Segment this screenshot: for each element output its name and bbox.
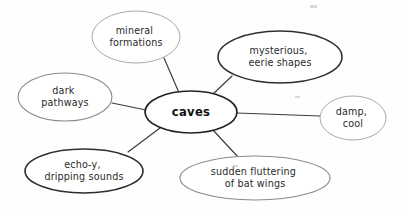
edge-caves-sudden-fluttering-bat-wings xyxy=(212,129,238,157)
scan-speck xyxy=(295,96,300,98)
node-label-caves: caves xyxy=(172,105,211,119)
scan-artifact-group xyxy=(232,5,317,167)
mindmap-canvas: mineral formations mysterious, eerie sha… xyxy=(0,0,405,216)
edge-caves-mysterious-eerie-shapes xyxy=(213,76,232,94)
scan-speck xyxy=(232,165,238,167)
edge-caves-echoy-dripping-sounds xyxy=(128,128,160,152)
node-label-mysterious-eerie-shapes: mysterious, eerie shapes xyxy=(248,45,311,68)
concept-web-diagram: mineral formations mysterious, eerie sha… xyxy=(0,0,405,216)
node-label-mineral-formations: mineral formations xyxy=(109,25,162,48)
node-damp-cool[interactable]: damp, cool xyxy=(320,96,386,140)
edge-caves-mineral-formations xyxy=(164,58,180,95)
node-mineral-formations[interactable]: mineral formations xyxy=(92,11,180,63)
edge-caves-dark-pathways xyxy=(112,103,146,110)
node-echoy-dripping-sounds[interactable]: echo-y, dripping sounds xyxy=(25,149,143,193)
node-dark-pathways[interactable]: dark pathways xyxy=(18,73,112,121)
scan-speck xyxy=(310,5,317,8)
node-caves-center[interactable]: caves xyxy=(145,91,237,133)
node-sudden-fluttering-bat-wings[interactable]: sudden fluttering of bat wings xyxy=(180,156,330,200)
edge-caves-damp-cool xyxy=(237,113,320,116)
node-mysterious-eerie-shapes[interactable]: mysterious, eerie shapes xyxy=(218,31,342,83)
